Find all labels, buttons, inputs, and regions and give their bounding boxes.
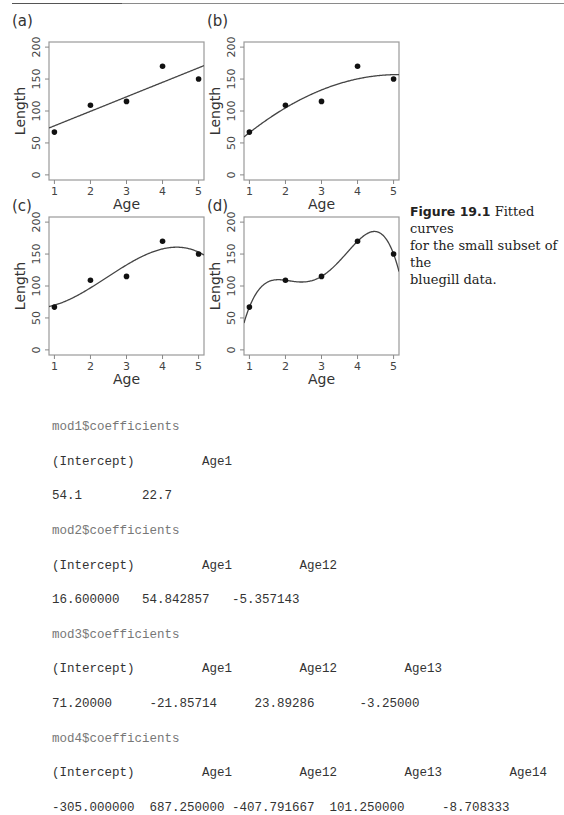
figure-caption: Figure 19.1 Fitted curves for the small … — [410, 203, 560, 288]
caption-line-2: for the small subset of the — [410, 238, 557, 270]
x-tick-label: 2 — [282, 360, 289, 373]
code-line: (Intercept) Age1 Age12 Age13 Age14 — [52, 765, 547, 782]
code-line: -305.000000 687.250000 -407.791667 101.2… — [52, 800, 547, 815]
y-tick-label: 0 — [225, 346, 238, 353]
x-tick-label: 5 — [390, 360, 397, 373]
data-point — [319, 274, 325, 280]
plot-area: 12345050100150200AgeLength — [207, 212, 399, 387]
x-tick-label: 4 — [354, 360, 361, 373]
y-tick-label: 50 — [225, 311, 238, 325]
code-line: mod4$coefficients — [52, 731, 547, 748]
plot-frame — [244, 217, 399, 355]
code-line: mod2$coefficients — [52, 523, 547, 540]
x-axis-label: Age — [308, 371, 335, 387]
code-line: mod3$coefficients — [52, 627, 547, 644]
y-axis-label: Length — [207, 262, 223, 310]
r-code-output: mod1$coefficients (Intercept) Age1 54.1 … — [52, 402, 547, 815]
caption-line-3: bluegill data. — [410, 272, 497, 287]
x-tick-label: 1 — [246, 360, 253, 373]
code-line: 71.20000 -21.85714 23.89286 -3.25000 — [52, 696, 547, 713]
y-tick-label: 150 — [225, 244, 238, 265]
data-point — [355, 238, 361, 244]
code-line: 16.600000 54.842857 -5.357143 — [52, 592, 547, 609]
figure-number: Figure 19.1 — [410, 204, 491, 219]
y-tick-label: 100 — [225, 276, 238, 297]
data-point — [247, 304, 253, 310]
code-line: (Intercept) Age1 Age12 — [52, 558, 547, 575]
y-tick-label: 200 — [225, 212, 238, 233]
code-line: mod1$coefficients — [52, 419, 547, 436]
code-line: (Intercept) Age1 — [52, 454, 547, 471]
code-line: 54.1 22.7 — [52, 488, 547, 505]
code-line: (Intercept) Age1 Age12 Age13 — [52, 661, 547, 678]
data-point — [391, 251, 397, 257]
data-point — [283, 277, 289, 283]
